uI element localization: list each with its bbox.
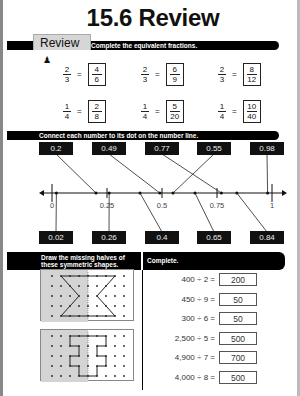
top-number-box[interactable]: 0.55 xyxy=(197,142,231,155)
worksheet-page: 15.6 Review Complete the equivalent frac… xyxy=(0,0,300,396)
top-number-box[interactable]: 0.77 xyxy=(145,142,179,155)
top-number-box[interactable]: 0.2 xyxy=(39,142,73,155)
grid-dot xyxy=(51,355,53,357)
grid-dot xyxy=(78,305,80,307)
grid-dot xyxy=(51,365,53,367)
symmetric-shape-grid-1[interactable] xyxy=(40,269,134,321)
grid-dot xyxy=(60,355,62,357)
grid-dot xyxy=(51,375,53,377)
top-number-box[interactable]: 0.49 xyxy=(92,142,126,155)
arrow-right-icon xyxy=(282,190,287,196)
grid-dot xyxy=(123,365,125,367)
grid-dot xyxy=(60,335,62,337)
grid-dot xyxy=(51,295,53,297)
section3-instruction-line1: Draw the missing halves of xyxy=(11,254,137,261)
division-row: 450 ÷ 9 =50 xyxy=(143,293,257,306)
shaded-half xyxy=(41,270,88,322)
tick-label: 0.75 xyxy=(210,201,225,210)
bottom-number-box[interactable]: 0.26 xyxy=(92,231,126,244)
grid-dot xyxy=(69,295,71,297)
grid-dot xyxy=(78,285,80,287)
bottom-number-box[interactable]: 0.4 xyxy=(145,231,179,244)
grid1-svg xyxy=(41,270,135,322)
grid-dot xyxy=(114,305,116,307)
division-expression: 4,000 ÷ 8 = xyxy=(143,373,215,382)
connector-line xyxy=(195,193,214,232)
grid-dot xyxy=(123,285,125,287)
bottom-number-box[interactable]: 0.84 xyxy=(250,231,284,244)
answer-box[interactable]: 50 xyxy=(219,293,257,306)
tick-label: 0.25 xyxy=(100,201,115,210)
grid-dot xyxy=(60,285,62,287)
connector-line xyxy=(56,154,96,193)
grid-dot xyxy=(114,335,116,337)
symmetric-shape-grid-2[interactable] xyxy=(40,329,134,381)
grid-dot xyxy=(96,305,98,307)
answer-box[interactable]: 200 xyxy=(219,273,257,286)
grid-dot xyxy=(60,345,62,347)
bottom-number-box[interactable]: 0.65 xyxy=(197,231,231,244)
grid-dot xyxy=(123,345,125,347)
grid-dot xyxy=(123,315,125,317)
grid-dot xyxy=(123,355,125,357)
grid-dot xyxy=(87,345,89,347)
grid-dot xyxy=(51,345,53,347)
grid-dot xyxy=(51,275,53,277)
number-dot xyxy=(95,192,98,195)
grid-dot xyxy=(60,375,62,377)
number-dot xyxy=(194,192,197,195)
connector-line xyxy=(162,154,221,193)
division-expression: 450 ÷ 9 = xyxy=(143,295,215,304)
grid-dot xyxy=(114,365,116,367)
number-dot xyxy=(108,192,111,195)
grid-dot xyxy=(114,285,116,287)
number-dot xyxy=(55,192,58,195)
division-expression: 4,900 ÷ 7 = xyxy=(143,353,215,362)
grid-dot xyxy=(114,345,116,347)
section3-header: Draw the missing halves of these symmetr… xyxy=(7,252,141,270)
grid-dot xyxy=(114,295,116,297)
grid-dot xyxy=(87,295,89,297)
grid-dot xyxy=(105,295,107,297)
answer-box[interactable]: 500 xyxy=(219,371,257,384)
grid-dot xyxy=(87,285,89,287)
connector-line xyxy=(173,154,214,193)
grid-dot xyxy=(87,365,89,367)
grid-dot xyxy=(60,365,62,367)
grid-dot xyxy=(60,305,62,307)
number-dot xyxy=(266,192,269,195)
answer-box[interactable]: 500 xyxy=(219,332,257,345)
answer-box[interactable]: 50 xyxy=(219,312,257,325)
division-expression: 400 ÷ 2 = xyxy=(143,275,215,284)
tick-label: 0.5 xyxy=(157,201,167,210)
number-dot xyxy=(139,192,142,195)
grid-dot xyxy=(87,355,89,357)
answer-box[interactable]: 700 xyxy=(219,351,257,364)
top-number-box[interactable]: 0.98 xyxy=(250,142,284,155)
grid2-svg xyxy=(41,330,135,382)
grid-dot xyxy=(123,375,125,377)
division-row: 4,900 ÷ 7 =700 xyxy=(143,351,257,364)
connector-line xyxy=(140,193,162,232)
division-row: 4,000 ÷ 8 =500 xyxy=(143,371,257,384)
division-expression: 300 ÷ 6 = xyxy=(143,314,215,323)
number-dot xyxy=(172,192,175,195)
grid-dot xyxy=(51,315,53,317)
division-row: 300 ÷ 6 =50 xyxy=(143,312,257,325)
division-row: 400 ÷ 2 =200 xyxy=(143,273,257,286)
section4-header: Complete. xyxy=(143,252,285,270)
arrow-left-icon xyxy=(39,190,44,196)
number-line-svg: 00.250.50.751 xyxy=(3,0,300,250)
connector-line xyxy=(109,154,160,193)
bottom-number-box[interactable]: 0.02 xyxy=(39,231,73,244)
grid-dot xyxy=(105,375,107,377)
grid-dot xyxy=(123,335,125,337)
division-row: 2,500 ÷ 5 =500 xyxy=(143,332,257,345)
division-expression: 2,500 ÷ 5 = xyxy=(143,334,215,343)
grid-dot xyxy=(123,295,125,297)
section3-instruction-line2: these symmetric shapes. xyxy=(11,261,137,268)
connector-line xyxy=(237,193,267,232)
grid-dot xyxy=(60,295,62,297)
grid-dot xyxy=(51,305,53,307)
grid-dot xyxy=(51,335,53,337)
